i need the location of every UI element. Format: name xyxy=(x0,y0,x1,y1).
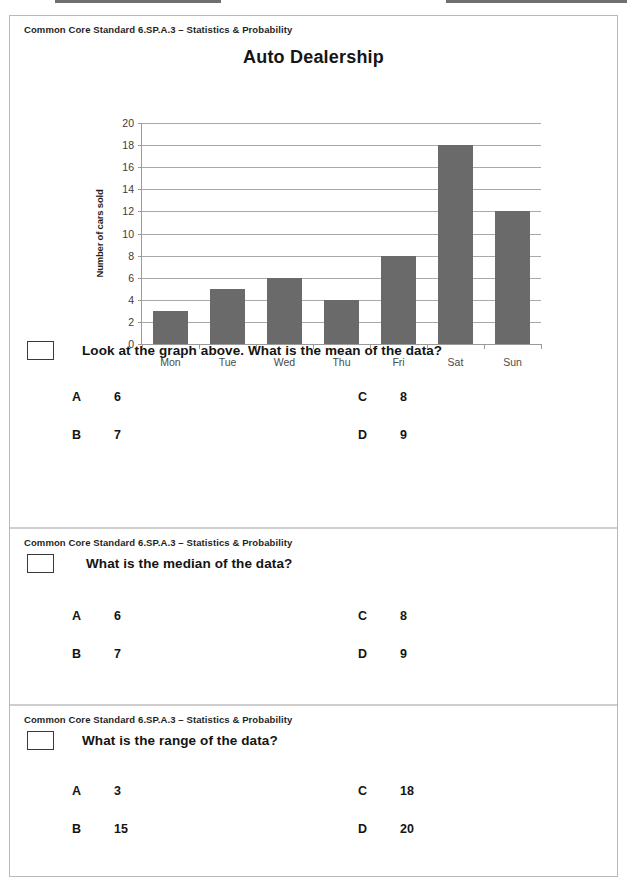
chart-y-axis-title-text: Number of cars sold xyxy=(94,189,105,277)
chart-x-tick xyxy=(199,344,200,349)
chart-y-tick-label: 0 xyxy=(128,338,134,350)
choice-option-a-3[interactable]: A 3 xyxy=(72,784,358,798)
chart-y-tick-label: 16 xyxy=(122,161,134,173)
chart-x-tick xyxy=(541,344,542,349)
choice-letter-c-2: C xyxy=(358,609,400,623)
chart-y-tick-label: 18 xyxy=(122,139,134,151)
choice-value-b-1: 7 xyxy=(114,428,121,442)
standard-label-2: Common Core Standard 6.SP.A.3 – Statisti… xyxy=(10,529,617,548)
question-text-1: Look at the graph above. What is the mea… xyxy=(82,343,442,358)
choice-letter-a-3: A xyxy=(72,784,114,798)
choice-option-d-3[interactable]: D 20 xyxy=(358,822,578,836)
chart-x-tick-label: Fri xyxy=(392,356,404,368)
choice-line-3a: A 3 C 18 xyxy=(72,784,597,798)
chart-y-tick xyxy=(138,211,142,212)
choice-option-c-1[interactable]: C 8 xyxy=(358,390,578,404)
chart-y-tick xyxy=(138,234,142,235)
chart-x-tick xyxy=(142,344,143,349)
choice-letter-c-3: C xyxy=(358,784,400,798)
choice-value-b-3: 15 xyxy=(114,822,128,836)
chart-y-tick-label: 4 xyxy=(128,294,134,306)
chart-gridline xyxy=(142,211,541,212)
chart-y-tick xyxy=(138,322,142,323)
choice-option-c-3[interactable]: C 18 xyxy=(358,784,578,798)
bar-chart: Auto Dealership Number of cars sold 2018… xyxy=(10,35,617,345)
question-section-3: Common Core Standard 6.SP.A.3 – Statisti… xyxy=(10,704,617,876)
chart-bar xyxy=(381,256,415,344)
choices-2: A 6 C 8 B 7 D 9 xyxy=(10,609,617,661)
choice-letter-d-2: D xyxy=(358,647,400,661)
choice-value-a-3: 3 xyxy=(114,784,121,798)
choice-letter-b-3: B xyxy=(72,822,114,836)
chart-x-tick-label: Tue xyxy=(219,356,237,368)
chart-gridline xyxy=(142,145,541,146)
choice-value-d-3: 20 xyxy=(400,822,414,836)
choice-letter-b-1: B xyxy=(72,428,114,442)
choice-value-b-2: 7 xyxy=(114,647,121,661)
cutoff-rule-right xyxy=(446,0,627,3)
chart-x-tick-label: Mon xyxy=(160,356,180,368)
chart-gridline xyxy=(142,123,541,124)
page-top-cutoff-rules xyxy=(0,0,627,14)
question-section-1: Common Core Standard 6.SP.A.3 – Statisti… xyxy=(10,16,617,527)
chart-y-tick xyxy=(138,256,142,257)
choice-option-b-1[interactable]: B 7 xyxy=(72,428,358,442)
chart-y-tick-label: 6 xyxy=(128,272,134,284)
choices-1: A 6 C 8 B 7 D 9 xyxy=(10,390,617,442)
chart-gridline xyxy=(142,256,541,257)
chart-gridline xyxy=(142,189,541,190)
choice-line-3b: B 15 D 20 xyxy=(72,822,597,836)
chart-x-tick-label: Thu xyxy=(332,356,350,368)
answer-checkbox-2[interactable] xyxy=(27,554,54,573)
chart-bar xyxy=(210,289,244,344)
chart-bar xyxy=(153,311,187,344)
choice-value-c-1: 8 xyxy=(400,390,407,404)
chart-y-tick-label: 8 xyxy=(128,250,134,262)
chart-y-tick xyxy=(138,123,142,124)
choice-line-1a: A 6 C 8 xyxy=(72,390,597,404)
chart-plot-area: 20181614121086420MonTueWedThuFriSatSun xyxy=(141,123,541,345)
chart-x-tick xyxy=(370,344,371,349)
chart-y-axis-title: Number of cars sold xyxy=(92,123,106,344)
choice-letter-b-2: B xyxy=(72,647,114,661)
chart-y-tick-label: 10 xyxy=(122,228,134,240)
chart-gridline xyxy=(142,234,541,235)
worksheet-frame: Common Core Standard 6.SP.A.3 – Statisti… xyxy=(9,15,618,877)
choice-value-a-1: 6 xyxy=(114,390,121,404)
choice-option-d-1[interactable]: D 9 xyxy=(358,428,578,442)
choice-option-a-1[interactable]: A 6 xyxy=(72,390,358,404)
chart-y-tick xyxy=(138,300,142,301)
question-row-2: What is the median of the data? xyxy=(10,554,617,573)
chart-x-tick xyxy=(313,344,314,349)
cutoff-rule-left xyxy=(55,0,221,3)
question-text-2: What is the median of the data? xyxy=(86,556,292,571)
choice-option-c-2[interactable]: C 8 xyxy=(358,609,578,623)
chart-y-tick-label: 12 xyxy=(122,205,134,217)
chart-bar xyxy=(324,300,358,344)
chart-x-tick xyxy=(484,344,485,349)
choice-option-b-3[interactable]: B 15 xyxy=(72,822,358,836)
choice-line-1b: B 7 D 9 xyxy=(72,428,597,442)
chart-y-tick-label: 14 xyxy=(122,183,134,195)
chart-y-tick-label: 2 xyxy=(128,316,134,328)
question-section-2: Common Core Standard 6.SP.A.3 – Statisti… xyxy=(10,527,617,704)
choice-letter-a-2: A xyxy=(72,609,114,623)
chart-x-tick xyxy=(256,344,257,349)
choice-option-a-2[interactable]: A 6 xyxy=(72,609,358,623)
chart-bar xyxy=(438,145,472,344)
chart-y-tick xyxy=(138,189,142,190)
chart-x-tick-label: Wed xyxy=(274,356,295,368)
chart-x-tick-label: Sat xyxy=(448,356,464,368)
choice-option-d-2[interactable]: D 9 xyxy=(358,647,578,661)
choice-value-d-1: 9 xyxy=(400,428,407,442)
chart-bar xyxy=(495,211,529,344)
chart-gridline xyxy=(142,167,541,168)
choice-letter-d-1: D xyxy=(358,428,400,442)
standard-label-1: Common Core Standard 6.SP.A.3 – Statisti… xyxy=(10,16,617,35)
choice-value-c-2: 8 xyxy=(400,609,407,623)
answer-checkbox-3[interactable] xyxy=(27,731,54,750)
choices-3: A 3 C 18 B 15 D 20 xyxy=(10,784,617,836)
chart-y-tick xyxy=(138,145,142,146)
choice-option-b-2[interactable]: B 7 xyxy=(72,647,358,661)
choice-line-2b: B 7 D 9 xyxy=(72,647,597,661)
